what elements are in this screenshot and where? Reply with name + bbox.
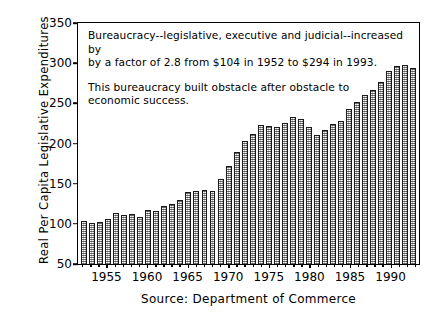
bar xyxy=(161,206,167,264)
x-tick-mark xyxy=(253,264,254,267)
bar xyxy=(338,121,344,264)
bar xyxy=(137,217,143,264)
x-tick-mark xyxy=(342,264,343,267)
x-tick-mark xyxy=(391,264,392,268)
x-tick-label: 1960 xyxy=(132,270,163,284)
bar xyxy=(250,134,256,264)
x-tick-mark xyxy=(179,264,180,267)
y-tick-label: 150 xyxy=(49,177,78,191)
bar xyxy=(185,192,191,264)
bar xyxy=(169,204,175,264)
bar xyxy=(242,141,248,264)
x-tick-mark xyxy=(358,264,359,267)
bar xyxy=(81,221,87,264)
y-tick-label: 100 xyxy=(49,217,78,231)
x-tick-mark xyxy=(309,264,310,268)
bar xyxy=(153,211,159,264)
bar xyxy=(218,179,224,264)
x-tick-mark xyxy=(115,264,116,267)
bar xyxy=(129,214,135,264)
x-tick-mark xyxy=(196,264,197,267)
annotation-line-4: economic success. xyxy=(88,94,410,108)
bar-slot xyxy=(80,23,88,264)
x-tick-mark xyxy=(350,264,351,268)
x-tick-label: 1965 xyxy=(172,270,203,284)
bar xyxy=(258,125,264,264)
x-tick-label: 1990 xyxy=(375,270,406,284)
x-tick-mark xyxy=(366,264,367,267)
x-tick-mark xyxy=(204,264,205,267)
x-tick-mark xyxy=(334,264,335,267)
bar-slot xyxy=(409,23,417,264)
x-tick-mark xyxy=(139,264,140,267)
bar xyxy=(378,82,384,264)
bar xyxy=(226,166,232,264)
y-tick-label: 300 xyxy=(49,56,78,70)
x-tick-mark xyxy=(123,264,124,267)
x-tick-mark xyxy=(188,264,189,268)
x-tick-mark xyxy=(399,264,400,267)
x-tick-mark xyxy=(277,264,278,267)
bar xyxy=(113,213,119,264)
bar xyxy=(210,191,216,264)
x-tick-mark xyxy=(415,264,416,267)
bar xyxy=(105,219,111,264)
x-tick-mark xyxy=(269,264,270,268)
annotation-text: Bureaucracy--legislative, executive and … xyxy=(88,29,410,108)
x-tick-mark xyxy=(147,264,148,268)
x-tick-mark xyxy=(236,264,237,267)
bar xyxy=(145,210,151,264)
x-tick-mark xyxy=(155,264,156,267)
bar xyxy=(193,191,199,264)
x-tick-label: 1955 xyxy=(91,270,122,284)
bar xyxy=(290,117,296,264)
plot-area: 50100150200250300350 1955196019651970197… xyxy=(77,22,420,265)
x-tick-mark xyxy=(220,264,221,267)
x-tick-mark xyxy=(90,264,91,267)
x-tick-mark xyxy=(82,264,83,267)
bar xyxy=(121,215,127,264)
x-tick-label: 1970 xyxy=(213,270,244,284)
x-tick-mark xyxy=(326,264,327,267)
x-tick-mark xyxy=(382,264,383,267)
bar xyxy=(234,152,240,264)
chart-figure: Real Per Capita Legislative Expenditures… xyxy=(0,0,439,320)
bar xyxy=(282,123,288,264)
y-tick-label: 200 xyxy=(49,137,78,151)
bar xyxy=(322,130,328,264)
bar xyxy=(177,200,183,264)
bar xyxy=(306,127,312,264)
bar xyxy=(330,124,336,264)
bar xyxy=(97,222,103,264)
x-tick-mark xyxy=(285,264,286,267)
source-note: Source: Department of Commerce xyxy=(77,292,420,306)
x-tick-mark xyxy=(244,264,245,267)
x-tick-mark xyxy=(131,264,132,267)
x-tick-label: 1975 xyxy=(254,270,285,284)
x-tick-mark xyxy=(374,264,375,267)
x-tick-mark xyxy=(163,264,164,267)
x-tick-mark xyxy=(318,264,319,267)
x-tick-mark xyxy=(261,264,262,267)
x-tick-mark xyxy=(293,264,294,267)
bar xyxy=(298,119,304,264)
bar xyxy=(274,127,280,264)
bar xyxy=(354,102,360,264)
x-tick-mark xyxy=(228,264,229,268)
x-tick-mark xyxy=(301,264,302,267)
bar xyxy=(362,95,368,264)
x-tick-label: 1985 xyxy=(335,270,366,284)
x-tick-mark xyxy=(407,264,408,267)
x-tick-mark xyxy=(171,264,172,267)
x-tick-mark xyxy=(212,264,213,267)
x-tick-mark xyxy=(106,264,107,268)
annotation-line-2: by a factor of 2.8 from $104 in 1952 to … xyxy=(88,56,410,70)
bar xyxy=(346,109,352,264)
bar xyxy=(202,190,208,264)
bar xyxy=(410,68,416,264)
bar xyxy=(89,223,95,264)
x-tick-mark xyxy=(98,264,99,267)
annotation-line-1: Bureaucracy--legislative, executive and … xyxy=(88,29,410,56)
bar xyxy=(314,135,320,264)
y-tick-label: 250 xyxy=(49,96,78,110)
